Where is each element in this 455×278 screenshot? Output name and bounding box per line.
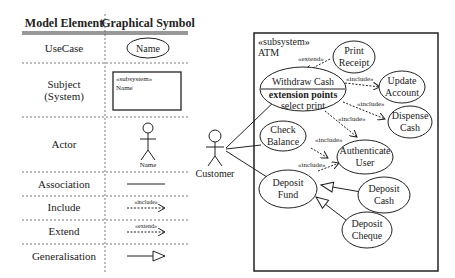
dispense-cash-l1: Dispense	[392, 110, 429, 121]
extend-label: «extend»	[298, 55, 324, 63]
update-account-l2: Account	[385, 87, 419, 98]
withdraw-cash: Withdraw Cash	[272, 76, 334, 87]
subject-symbol-stereotype: «subsystem»	[116, 75, 153, 83]
uml-usecase-figure: Model Element Graphical Symbol UseCase N…	[0, 0, 455, 278]
subsystem-stereotype: «subsystem»	[258, 36, 310, 47]
update-account-l1: Update	[388, 75, 417, 86]
header-graphical-symbol: Graphical Symbol	[101, 16, 195, 30]
select-print: select print	[281, 100, 325, 111]
header-model-element: Model Element	[25, 16, 103, 30]
deposit-cash-l1: Deposit	[368, 183, 399, 194]
extension-points: extension points	[269, 89, 338, 100]
authenticate-user-l1: Authenticate	[339, 145, 391, 156]
print-receipt-l1: Print	[344, 45, 364, 56]
deposit-fund-l1: Deposit	[272, 177, 303, 188]
row-generalisation-label: Generalisation	[32, 250, 97, 262]
usecase-symbol-text: Name	[136, 43, 160, 54]
subsystem-name: ATM	[258, 47, 279, 58]
atm-usecase-diagram: «subsystem» ATM Customer «extend»	[196, 33, 438, 271]
actor-symbol-icon	[140, 123, 156, 160]
deposit-cheque-l2: Cheque	[352, 230, 383, 241]
include-label-deposit: «include»	[298, 161, 326, 169]
check-balance-l1: Check	[270, 124, 296, 135]
deposit-cheque-l1: Deposit	[351, 218, 382, 229]
check-balance-l2: Balance	[267, 136, 300, 147]
subject-symbol-name: Name	[116, 84, 133, 92]
row-subject-label: Subject	[48, 78, 81, 90]
include-label-dispense: «include»	[357, 100, 385, 108]
dispense-cash-l2: Cash	[400, 122, 420, 133]
include-label-balance: «include»	[315, 136, 343, 144]
include-symbol-text: «include»	[134, 199, 158, 205]
legend-table: Model Element Graphical Symbol UseCase N…	[22, 14, 196, 272]
row-subject-label2: (System)	[44, 90, 84, 103]
customer-label: Customer	[196, 168, 236, 179]
row-association-label: Association	[38, 178, 90, 190]
deposit-cash-l2: Cash	[374, 195, 394, 206]
extend-symbol-text: «extend»	[135, 223, 157, 229]
include-label-update: «include»	[346, 75, 374, 83]
row-actor-label: Actor	[51, 138, 76, 150]
deposit-fund-l2: Fund	[278, 189, 299, 200]
customer-actor-icon	[206, 130, 224, 166]
row-extend-label: Extend	[48, 225, 80, 237]
row-usecase-label: UseCase	[45, 42, 84, 54]
actor-symbol-name: Name	[140, 161, 157, 169]
include-label-authenticate: «include»	[338, 115, 366, 123]
authenticate-user-l2: User	[356, 157, 376, 168]
print-receipt-l2: Receipt	[339, 57, 370, 68]
row-include-label: Include	[48, 201, 81, 213]
